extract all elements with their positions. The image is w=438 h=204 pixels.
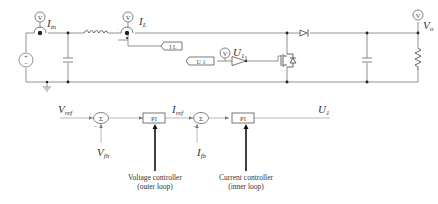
svg-text:–: – <box>93 123 98 129</box>
label-iin: Iin <box>46 17 57 31</box>
svg-text:V: V <box>38 14 43 21</box>
voltage-controller-subcaption: (outer loop) <box>137 182 173 191</box>
sum-junction-voltage: Σ + – <box>89 111 109 129</box>
svg-text:V: V <box>126 14 131 21</box>
label-iref: Iref <box>171 103 184 117</box>
label-ifb: Ifb <box>196 146 207 160</box>
svg-text:Σ: Σ <box>99 115 103 123</box>
svg-text:Σ: Σ <box>199 115 203 123</box>
label-vo: Vo <box>423 19 434 33</box>
svg-text:-: - <box>87 27 89 32</box>
svg-text:V: V <box>223 50 228 57</box>
boost-converter-diagram: + – - - V V V <box>0 0 438 204</box>
pi-block-voltage: PI <box>143 113 165 123</box>
current-controller-caption: Current controller <box>219 173 273 182</box>
tag-il: I L <box>161 42 182 50</box>
label-u1-output: U1 <box>318 103 329 117</box>
tag-u1: U 1 <box>186 57 214 65</box>
dc-source-icon: + – <box>19 53 33 67</box>
label-vref: Vref <box>58 103 73 117</box>
svg-text:PI: PI <box>151 115 157 122</box>
current-controller-arrow-icon <box>244 124 249 171</box>
meter-output-icon: V <box>413 10 423 20</box>
meter-gate-icon: V <box>220 48 230 61</box>
input-capacitor-icon <box>63 58 73 62</box>
ground-icon <box>43 87 51 91</box>
inductor-current-sensor-icon <box>121 27 133 39</box>
meter-inductor-icon: V <box>123 12 133 22</box>
meter-input-icon: V <box>35 12 45 22</box>
sum-junction-current: Σ + – <box>189 111 209 129</box>
voltage-controller-arrow-icon <box>153 124 158 171</box>
svg-text:+: + <box>189 111 192 116</box>
svg-text:V: V <box>416 12 421 19</box>
svg-text:U 1: U 1 <box>197 59 206 65</box>
svg-text:PI: PI <box>240 115 246 122</box>
svg-text:-: - <box>117 27 119 32</box>
pi-block-current: PI <box>232 113 254 123</box>
mosfet-switch-icon <box>281 54 296 67</box>
svg-text:+: + <box>89 111 92 116</box>
output-capacitor-icon <box>362 58 372 62</box>
label-vfb: Vfb <box>97 146 110 160</box>
label-il: IL <box>138 15 147 29</box>
svg-text:I L: I L <box>169 44 176 50</box>
load-resistor-icon <box>415 48 421 70</box>
voltage-controller-caption: Voltage controller <box>128 173 182 182</box>
diode-icon <box>300 30 308 37</box>
current-controller-subcaption: (inner loop) <box>228 182 264 191</box>
input-current-sensor-icon <box>34 27 46 35</box>
